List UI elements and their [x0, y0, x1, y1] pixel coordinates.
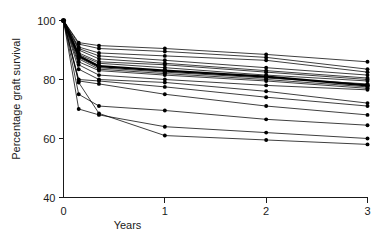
series-centre-06 [64, 21, 370, 82]
data-point-marker [97, 104, 101, 108]
data-point-marker [366, 88, 370, 92]
data-point-marker [366, 104, 370, 108]
axes-group [59, 20, 368, 203]
series-centre-01 [64, 21, 370, 64]
y-axis-title: Percentage graft survival [10, 38, 22, 160]
data-point-marker [264, 79, 268, 83]
x-tick-label: 0 [60, 205, 66, 217]
data-point-marker [77, 107, 81, 111]
data-point-marker [366, 60, 370, 64]
data-point-marker [77, 81, 81, 85]
data-point-marker [264, 95, 268, 99]
series-line [64, 21, 368, 139]
data-point-marker [97, 69, 101, 73]
graft-survival-chart-figure: 4060801000123YearsPercentage graft survi… [0, 0, 392, 239]
data-point-marker [264, 58, 268, 62]
data-point-marker [163, 73, 167, 77]
data-point-marker [163, 92, 167, 96]
x-tick-label: 3 [364, 205, 370, 217]
data-point-marker [163, 54, 167, 58]
x-axis-title: Years [114, 219, 142, 231]
data-point-marker [97, 47, 101, 51]
y-tick-label: 40 [43, 192, 55, 204]
data-point-marker [77, 92, 81, 96]
data-point-marker [264, 117, 268, 121]
series-group [61, 18, 370, 146]
data-point-marker [366, 137, 370, 141]
series-line [64, 21, 368, 62]
data-point-marker [264, 131, 268, 135]
data-point-marker [163, 125, 167, 129]
series-line [64, 21, 368, 70]
series-line [64, 21, 368, 80]
data-point-marker [163, 85, 167, 89]
data-point-marker [366, 142, 370, 146]
data-point-marker [163, 109, 167, 113]
series-line [64, 21, 368, 104]
x-tick-label: 1 [162, 205, 168, 217]
data-point-marker [77, 67, 81, 71]
series-line [64, 21, 368, 90]
y-tick-label: 100 [37, 15, 55, 27]
origin-data-point-marker [61, 18, 66, 23]
series-line [64, 21, 368, 107]
data-point-marker [163, 134, 167, 138]
data-point-marker [264, 89, 268, 93]
data-point-marker [264, 138, 268, 142]
y-tick-label: 80 [43, 74, 55, 86]
x-tick-label: 2 [263, 205, 269, 217]
data-point-marker [97, 82, 101, 86]
data-point-marker [97, 73, 101, 77]
data-point-marker [264, 104, 268, 108]
y-tick-label: 60 [43, 133, 55, 145]
data-point-marker [366, 123, 370, 127]
chart-canvas: 4060801000123YearsPercentage graft survi… [0, 0, 392, 239]
data-point-marker [366, 113, 370, 117]
data-point-marker [163, 81, 167, 85]
data-point-marker [264, 83, 268, 87]
data-point-marker [97, 111, 101, 115]
data-point-marker [163, 50, 167, 54]
